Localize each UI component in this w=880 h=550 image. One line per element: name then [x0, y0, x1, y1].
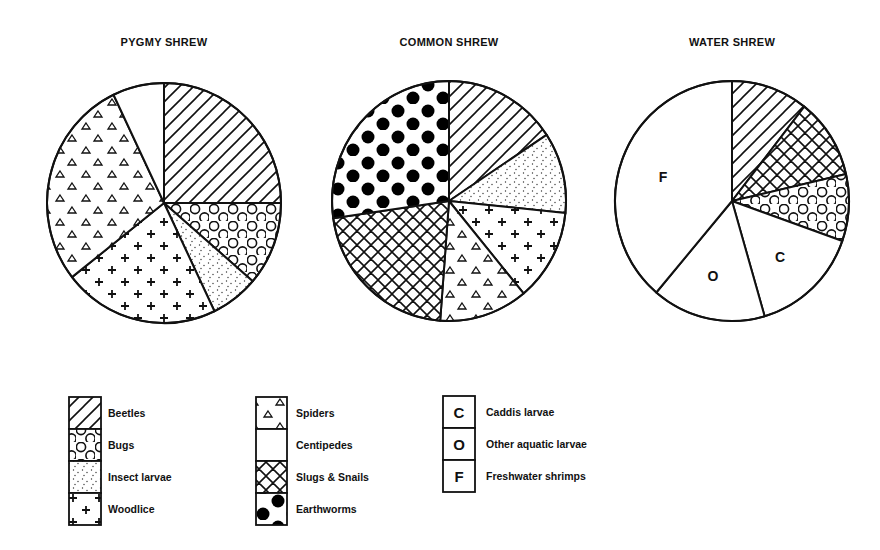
legend-swatch-crosses — [69, 493, 101, 525]
legend-label: Centipedes — [296, 439, 353, 451]
slice-label-other-aquatic-larvae: O — [708, 268, 719, 284]
pie-title-water-shrew: WATER SHREW — [689, 36, 776, 48]
legend-label: Slugs & Snails — [296, 471, 369, 483]
pie-slice-earthworms — [332, 81, 449, 218]
shrew-diet-pie-charts: PYGMY SHREWCOMMON SHREWWATER SHREW COF B… — [0, 0, 880, 550]
legend-letter: O — [453, 436, 465, 453]
legend-swatch-fine-dots — [69, 461, 101, 493]
legend-item-earthworms: Earthworms — [256, 493, 357, 525]
legend-item-bugs: Bugs — [69, 429, 134, 461]
legend-letter: F — [454, 468, 463, 485]
pie-slice-beetles — [164, 83, 281, 203]
legend-label: Bugs — [108, 439, 134, 451]
legend-label: Caddis larvae — [486, 406, 554, 418]
legend-column-3: CCaddis larvaeOOther aquatic larvaeFFres… — [443, 396, 587, 492]
legend-item-spiders: Spiders — [256, 397, 335, 429]
legend-item-slugs-and-snails: Slugs & Snails — [256, 461, 369, 493]
legend-swatch-circles — [69, 429, 101, 461]
legend-item-insect-larvae: Insect larvae — [69, 461, 172, 493]
legend-item-centipedes: Centipedes — [256, 429, 353, 461]
pie-slice-slugs-and-snails — [333, 201, 449, 321]
legend-label: Other aquatic larvae — [486, 438, 587, 450]
legend-item-woodlice: Woodlice — [69, 493, 155, 525]
legend-swatch-triangles — [256, 397, 287, 429]
legend-column-1: BeetlesBugsInsect larvaeWoodlice — [69, 397, 172, 525]
pie-pygmy-shrew — [47, 83, 281, 323]
legend-swatch-filled-dots — [256, 493, 287, 525]
legend-label: Woodlice — [108, 503, 155, 515]
legend-item-freshwater-shrimps: FFreshwater shrimps — [443, 460, 586, 492]
legend-swatch-blank — [256, 429, 287, 461]
legend-swatch-diagonal-hatch — [69, 397, 101, 429]
legend-label: Insect larvae — [108, 471, 172, 483]
legend-letter: C — [454, 404, 465, 421]
legend-swatch-crosshatch — [256, 461, 287, 493]
legend-label: Beetles — [108, 407, 146, 419]
legend-label: Freshwater shrimps — [486, 470, 586, 482]
pie-title-pygmy-shrew: PYGMY SHREW — [121, 36, 208, 48]
pie-common-shrew — [332, 81, 566, 321]
pie-water-shrew: COF — [615, 81, 849, 321]
legend-label: Spiders — [296, 407, 335, 419]
legend-item-other-aquatic-larvae: OOther aquatic larvae — [443, 428, 587, 460]
legend-label: Earthworms — [296, 503, 357, 515]
pie-title-common-shrew: COMMON SHREW — [400, 36, 499, 48]
slice-label-freshwater-shrimps: F — [659, 169, 668, 185]
legend-item-caddis-larvae: CCaddis larvae — [443, 396, 554, 428]
slice-label-caddis-larvae: C — [775, 249, 785, 265]
legend-item-beetles: Beetles — [69, 397, 146, 429]
legend-column-2: SpidersCentipedesSlugs & SnailsEarthworm… — [256, 397, 369, 525]
